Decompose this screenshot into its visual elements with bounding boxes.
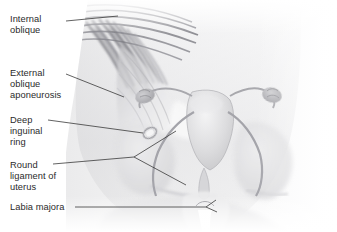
label-round-ligament-of-uterus: Round ligament of uterus (10, 160, 56, 194)
label-labia-majora: Labia majora (10, 202, 64, 213)
label-internal-oblique: Internal oblique (10, 14, 41, 36)
anatomy-figure: Internal oblique External oblique aponeu… (0, 0, 337, 232)
illustration-canvas (0, 0, 337, 232)
label-deep-inguinal-ring: Deep inguinal ring (10, 115, 42, 149)
label-external-oblique-aponeurosis: External oblique aponeurosis (10, 68, 61, 102)
